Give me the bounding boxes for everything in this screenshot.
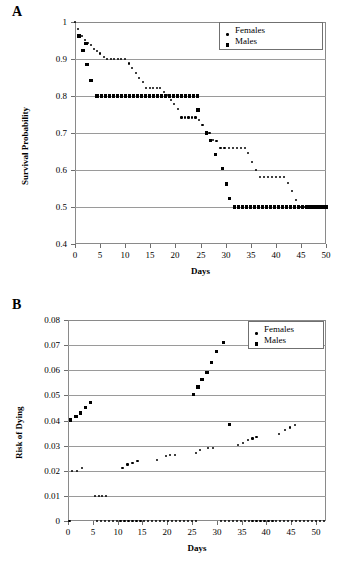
data-point-females: [142, 81, 144, 83]
y-tick-label: 0.07: [0, 341, 60, 350]
data-point-males: [196, 94, 199, 97]
data-point-females: [99, 52, 101, 54]
data-point-females: [201, 124, 203, 126]
x-tick-label: 50: [304, 528, 328, 537]
y-axis-title: Risk of Dying: [14, 406, 24, 459]
data-point-females: [105, 495, 107, 497]
data-point-females: [163, 520, 165, 522]
data-point-females: [267, 520, 269, 522]
data-point-males: [293, 205, 296, 208]
y-tick-mark: [71, 133, 75, 134]
chart-b: 00.010.020.030.040.050.060.070.080510152…: [0, 295, 341, 576]
data-point-males: [124, 94, 127, 97]
data-point-males: [120, 94, 123, 97]
x-tick-label: 10: [113, 251, 137, 260]
x-tick-mark: [217, 521, 218, 525]
data-point-males: [136, 94, 139, 97]
x-tick-label: 25: [189, 251, 213, 260]
data-point-females: [103, 56, 105, 58]
data-point-males: [184, 94, 187, 97]
x-tick-mark: [100, 244, 101, 248]
data-point-males: [221, 167, 224, 170]
data-point-females: [71, 470, 73, 472]
y-tick-mark: [64, 496, 68, 497]
x-tick-label: 5: [88, 251, 112, 260]
data-point-males: [301, 205, 304, 208]
data-point-females: [251, 437, 253, 439]
x-tick-label: 0: [56, 528, 80, 537]
data-point-females: [135, 72, 137, 74]
data-point-males: [164, 94, 167, 97]
data-point-males: [84, 42, 87, 45]
data-point-males: [140, 94, 143, 97]
data-point-females: [251, 520, 253, 522]
y-tick-label: 0.06: [0, 366, 60, 375]
data-point-males: [89, 79, 92, 82]
data-point-males: [241, 205, 244, 208]
y-axis-title: Survival Probability: [20, 107, 30, 185]
y-tick-label: 0.04: [0, 417, 60, 426]
data-point-females: [224, 520, 226, 522]
legend-item[interactable]: Females: [252, 324, 319, 335]
data-point-females: [228, 147, 230, 149]
data-point-males: [84, 406, 87, 409]
y-tick-label: 0.5: [0, 203, 67, 212]
x-tick-label: 45: [289, 251, 313, 260]
data-point-females: [167, 520, 169, 522]
y-tick-mark: [64, 421, 68, 422]
legend-item[interactable]: Females: [223, 25, 318, 36]
data-point-females: [236, 147, 238, 149]
data-point-females: [117, 58, 119, 60]
data-point-males: [305, 205, 308, 208]
data-point-females: [195, 520, 197, 522]
data-point-females: [187, 520, 189, 522]
data-point-females: [139, 520, 141, 522]
data-point-females: [240, 520, 242, 522]
data-point-females: [287, 182, 289, 184]
data-point-females: [84, 39, 86, 41]
data-point-males: [285, 205, 288, 208]
y-tick-mark: [71, 59, 75, 60]
data-point-females: [208, 132, 210, 134]
x-axis-title: Days: [75, 266, 326, 276]
data-point-males: [269, 205, 272, 208]
data-point-males: [200, 378, 203, 381]
data-point-females: [242, 442, 244, 444]
x-tick-label: 30: [205, 528, 229, 537]
legend-item[interactable]: Males: [223, 36, 318, 47]
data-point-males: [152, 94, 155, 97]
data-point-females: [183, 520, 185, 522]
panel-b: B 00.010.020.030.040.050.060.070.0805101…: [0, 295, 341, 576]
data-point-males: [160, 94, 163, 97]
data-point-males: [245, 205, 248, 208]
data-point-males: [249, 205, 252, 208]
data-point-males: [196, 108, 199, 111]
data-point-males: [112, 94, 115, 97]
data-point-females: [187, 116, 189, 118]
data-point-males: [210, 361, 213, 364]
data-point-females: [248, 520, 250, 522]
data-point-females: [126, 463, 128, 465]
x-tick-mark: [75, 244, 76, 248]
data-point-females: [255, 520, 257, 522]
data-point-males: [228, 423, 231, 426]
data-point-males: [168, 94, 171, 97]
data-point-females: [104, 520, 106, 522]
data-point-males: [297, 205, 300, 208]
data-point-males: [176, 94, 179, 97]
gridline: [75, 133, 326, 134]
data-point-females: [127, 520, 129, 522]
y-tick-mark: [64, 320, 68, 321]
data-point-males: [215, 350, 218, 353]
x-tick-label: 35: [230, 528, 254, 537]
gridline: [68, 395, 326, 396]
data-point-males: [233, 205, 236, 208]
data-point-males: [148, 94, 151, 97]
y-tick-mark: [71, 170, 75, 171]
legend-item[interactable]: Males: [252, 335, 319, 346]
y-tick-label: 0.8: [0, 92, 67, 101]
y-tick-label: 0.9: [0, 55, 67, 64]
data-point-males: [180, 94, 183, 97]
data-point-males: [265, 205, 268, 208]
data-point-males: [281, 205, 284, 208]
